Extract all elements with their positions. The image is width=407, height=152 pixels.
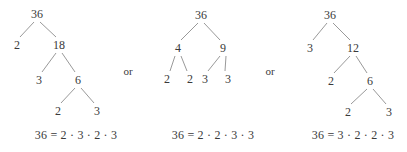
tree-branch: [333, 23, 350, 40]
tree-node-value: 6: [367, 75, 373, 87]
tree-node-value: 36: [195, 9, 207, 21]
tree-node-value: 36: [31, 8, 43, 20]
tree-node-value: 36: [324, 9, 336, 21]
or-separator: or: [265, 66, 274, 77]
tree-branch: [81, 88, 94, 103]
tree-node-value: 12: [347, 42, 359, 54]
tree-branch: [225, 56, 226, 71]
tree-node-value: 3: [386, 106, 392, 118]
tree-branch: [170, 56, 175, 71]
tree-node-value: 3: [36, 74, 42, 86]
tree-branch: [204, 23, 220, 40]
tree-node-value: 2: [187, 73, 193, 85]
tree-branch: [313, 23, 327, 40]
tree-node-value: 3: [202, 73, 208, 85]
or-separator: or: [123, 66, 132, 77]
factor-trees-figure: 36218362336 = 2 · 3 · 2 · 33649223336 = …: [0, 0, 407, 152]
factorization-equation: 36 = 2 · 3 · 2 · 3: [35, 129, 117, 141]
tree-node-value: 4: [175, 42, 181, 54]
tree-node-value: 3: [94, 105, 100, 117]
tree-node-value: 2: [55, 105, 61, 117]
tree-node-value: 9: [220, 42, 226, 54]
tree-node-value: 2: [345, 106, 351, 118]
tree-branch: [40, 22, 56, 37]
tree-branch: [42, 53, 56, 72]
tree-branch: [181, 23, 198, 40]
factorization-equation: 36 = 3 · 2 · 2 · 3: [312, 129, 394, 141]
tree-node-value: 3: [225, 73, 231, 85]
tree-branch: [20, 22, 34, 37]
tree-branch: [373, 89, 386, 104]
tree-branch: [334, 56, 350, 73]
tree-branch: [351, 89, 367, 104]
tree-branch: [61, 88, 75, 103]
tree-node-value: 6: [75, 74, 81, 86]
tree-node-value: 2: [164, 73, 170, 85]
factorization-equation: 36 = 2 · 2 · 3 · 3: [172, 129, 254, 141]
tree-node-value: 18: [53, 39, 65, 51]
tree-node-value: 2: [14, 39, 20, 51]
tree-branch: [62, 53, 75, 72]
tree-branch: [181, 56, 187, 71]
tree-node-value: 2: [328, 75, 334, 87]
tree-branch: [356, 56, 367, 73]
tree-node-value: 3: [307, 42, 313, 54]
tree-branch: [208, 56, 220, 71]
